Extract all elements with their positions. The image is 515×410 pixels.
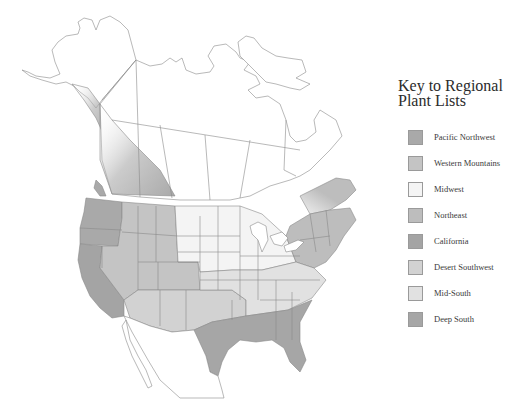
north-america-map bbox=[0, 0, 400, 410]
legend-label: Pacific Northwest bbox=[434, 132, 495, 142]
legend-item-western-mountains: Western Mountains bbox=[398, 150, 515, 176]
legend-title-line2: Plant Lists bbox=[398, 93, 515, 108]
legend-item-midwest: Midwest bbox=[398, 176, 515, 202]
legend-label: Desert Southwest bbox=[434, 262, 494, 272]
legend-item-desert-southwest: Desert Southwest bbox=[398, 254, 515, 280]
legend-item-northeast: Northeast bbox=[398, 202, 515, 228]
legend-swatch bbox=[408, 182, 423, 197]
legend-swatch bbox=[408, 234, 423, 249]
legend-label: Deep South bbox=[434, 314, 474, 324]
legend-swatch bbox=[408, 286, 423, 301]
island-vancouver bbox=[94, 180, 106, 196]
legend-item-mid-south: Mid-South bbox=[398, 280, 515, 306]
legend-item-california: California bbox=[398, 228, 515, 254]
legend-title-line1: Key to Regional bbox=[398, 78, 515, 93]
legend-swatch bbox=[408, 312, 423, 327]
legend-title: Key to Regional Plant Lists bbox=[398, 78, 515, 108]
legend-swatch bbox=[408, 208, 423, 223]
region-northeast bbox=[286, 208, 356, 268]
legend-label: Western Mountains bbox=[434, 158, 500, 168]
legend-item-deep-south: Deep South bbox=[398, 306, 515, 332]
legend-swatch bbox=[408, 130, 423, 145]
legend: Key to Regional Plant Lists Pacific Nort… bbox=[398, 78, 515, 332]
legend-label: Northeast bbox=[434, 210, 467, 220]
legend-label: Mid-South bbox=[434, 288, 471, 298]
legend-swatch bbox=[408, 156, 423, 171]
legend-swatch bbox=[408, 260, 423, 275]
legend-label: California bbox=[434, 236, 468, 246]
region-pacific-northwest bbox=[80, 198, 122, 246]
legend-label: Midwest bbox=[434, 184, 464, 194]
legend-item-pacific-northwest: Pacific Northwest bbox=[398, 124, 515, 150]
